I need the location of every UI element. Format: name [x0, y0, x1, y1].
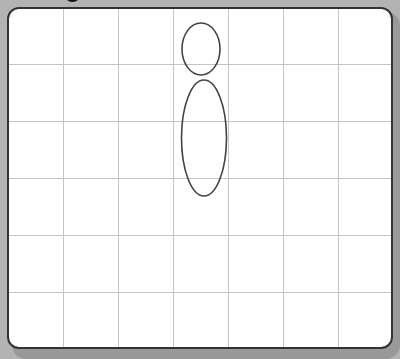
shapes-layer — [0, 0, 400, 359]
small-ellipse[interactable] — [182, 23, 220, 75]
large-ellipse[interactable] — [182, 80, 227, 196]
